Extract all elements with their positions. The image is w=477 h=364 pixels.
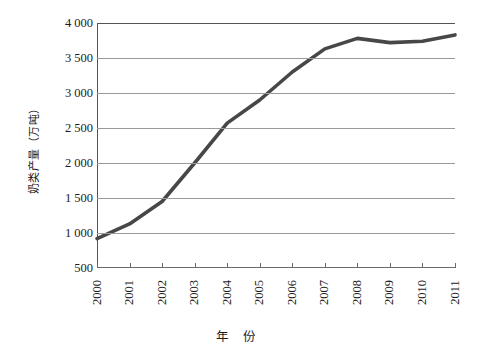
x-tick-label: 2010	[415, 270, 429, 316]
x-tick-label: 2007	[318, 270, 332, 316]
x-tick-label-text: 2007	[318, 280, 331, 305]
x-tick-label: 2005	[253, 270, 267, 316]
x-tick-label: 2003	[188, 270, 202, 316]
x-tick-mark	[162, 263, 163, 268]
y-tick-label: 3 500	[41, 52, 93, 65]
plot-area	[97, 23, 455, 268]
x-tick-label: 2001	[123, 270, 137, 316]
y-tick-label: 2 000	[41, 157, 93, 170]
x-tick-label-text: 2004	[221, 280, 234, 305]
x-tick-label-text: 2000	[91, 280, 104, 305]
x-tick-mark	[422, 263, 423, 268]
gridline	[97, 198, 455, 199]
x-tick-label-text: 2001	[123, 280, 136, 305]
x-tick-mark	[390, 263, 391, 268]
y-tick-label: 1 500	[41, 192, 93, 205]
x-axis-tick-labels: 2000200120022003200420052006200720082009…	[97, 270, 467, 320]
x-tick-label: 2008	[350, 270, 364, 316]
x-tick-label-text: 2009	[383, 280, 396, 305]
x-tick-label-text: 2010	[416, 280, 429, 305]
x-tick-label: 2009	[383, 270, 397, 316]
x-tick-mark	[195, 263, 196, 268]
y-tick-label: 1 000	[41, 227, 93, 240]
x-axis-title: 年 份	[0, 326, 477, 345]
x-tick-mark	[292, 263, 293, 268]
x-tick-mark	[325, 263, 326, 268]
x-tick-label: 2011	[448, 270, 462, 316]
milk-production-line	[97, 35, 455, 239]
x-tick-label-text: 2006	[286, 280, 299, 305]
gridline	[97, 128, 455, 129]
y-tick-label: 500	[41, 262, 93, 275]
x-tick-label: 2004	[220, 270, 234, 316]
x-tick-mark	[455, 263, 456, 268]
y-tick-label: 4 000	[41, 17, 93, 30]
gridline	[97, 233, 455, 234]
x-tick-label: 2006	[285, 270, 299, 316]
gridline	[97, 58, 455, 59]
x-tick-mark	[97, 263, 98, 268]
gridline	[97, 93, 455, 94]
data-series-line	[97, 23, 455, 268]
x-tick-mark	[130, 263, 131, 268]
x-tick-label-text: 2002	[156, 280, 169, 305]
x-tick-label-text: 2011	[449, 280, 462, 305]
y-axis-title-label: 奶类产量（万吨）	[25, 102, 41, 194]
x-tick-mark	[227, 263, 228, 268]
x-axis-title-label: 年 份	[216, 330, 260, 344]
x-tick-mark	[357, 263, 358, 268]
x-tick-label: 2002	[155, 270, 169, 316]
line-chart-figure: 奶类产量（万吨） 5001 0001 5002 0002 5003 0003 5…	[0, 0, 477, 364]
x-tick-label: 2000	[90, 270, 104, 316]
x-tick-label-text: 2008	[351, 280, 364, 305]
y-tick-label: 2 500	[41, 122, 93, 135]
x-tick-label-text: 2003	[188, 280, 201, 305]
gridline	[97, 163, 455, 164]
x-tick-mark	[260, 263, 261, 268]
y-axis-tick-labels: 5001 0001 5002 0002 5003 0003 5004 000	[40, 0, 93, 364]
x-tick-label-text: 2005	[253, 280, 266, 305]
y-tick-label: 3 000	[41, 87, 93, 100]
